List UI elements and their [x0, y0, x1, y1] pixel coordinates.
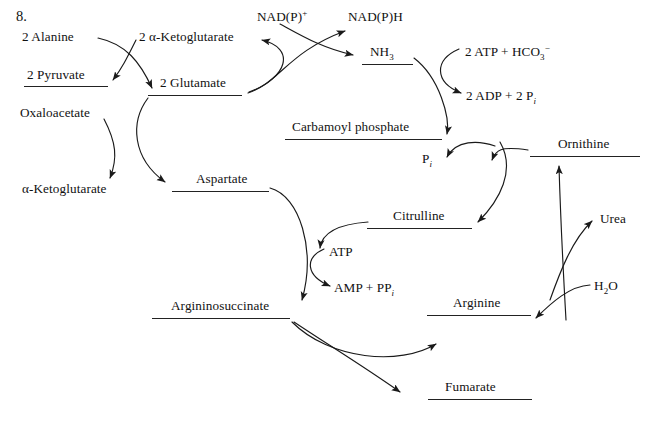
underline-ammonia — [362, 64, 413, 65]
node-citrulline: Citrulline — [393, 209, 445, 223]
node-atp: ATP — [329, 245, 353, 259]
underline-pyruvate — [24, 86, 108, 87]
arrow-alanine-to-glutamate — [98, 38, 152, 88]
diagram-page: 8. 2 Alanine2 PyruvateOxaloacetateα-Keto… — [0, 0, 655, 421]
arrow-aketoglutarate-to-pyruvate — [113, 40, 136, 80]
node-glutamate: 2 Glutamate — [160, 76, 226, 90]
subscript-italic: i — [429, 159, 432, 169]
arrow-atp-to-amp — [310, 249, 330, 286]
superscript: − — [545, 43, 550, 53]
node-ornithine: Ornithine — [558, 137, 609, 151]
node-urea: Urea — [600, 212, 626, 226]
superscript: + — [302, 8, 307, 18]
underline-argininosuccinate — [152, 318, 290, 319]
subscript: 3 — [389, 52, 394, 62]
arrow-layer — [0, 0, 655, 421]
node-amp-ppi: AMP + PPi — [334, 281, 394, 295]
arrow-arginine-to-urea — [550, 221, 592, 300]
subscript-italic: i — [392, 288, 395, 298]
arrow-aspartate-to-argininosuccinate — [270, 188, 307, 300]
underline-carbamoyl-phosphate — [285, 139, 442, 140]
underline-glutamate — [148, 95, 242, 96]
underline-citrulline — [367, 228, 472, 229]
node-nadp-plus: NAD(P)+ — [257, 10, 307, 24]
node-aspartate: Aspartate — [196, 172, 247, 186]
arrow-glutamate-to-aspartate — [137, 98, 165, 182]
subscript-italic: i — [533, 96, 536, 106]
arrow-water-to-arginine — [536, 285, 590, 318]
node-carbamoyl-phosphate: Carbamoyl phosphate — [292, 120, 409, 134]
arrow-nadp-to-ammonia — [280, 24, 353, 55]
arrow-glutamate-to-nadph — [248, 31, 345, 93]
node-ammonia: NH3 — [370, 45, 394, 59]
subscript: 2 — [604, 286, 609, 296]
arrow-arginine-to-ornithine — [559, 166, 566, 320]
arrow-ammonia-to-carbamoyl — [414, 58, 448, 134]
node-pyruvate: 2 Pyruvate — [27, 68, 85, 82]
node-alpha-ketoglutarate-top: 2 α-Ketoglutarate — [139, 30, 234, 44]
arrow-ornithine-to-citrulline — [492, 148, 528, 160]
node-fumarate: Fumarate — [445, 380, 496, 394]
node-pi: Pi — [422, 152, 432, 166]
arrow-carbamoyl-to-citrulline — [478, 142, 506, 222]
node-alanine: 2 Alanine — [22, 30, 74, 44]
item-number: 8. — [16, 8, 27, 25]
arrow-argininosuccinate-to-arginine — [292, 322, 436, 357]
arrow-argininosuccinate-to-fumarate — [294, 322, 400, 392]
node-oxaloacetate: Oxaloacetate — [20, 106, 90, 120]
node-atp-bicarbonate: 2 ATP + HCO3− — [465, 45, 550, 59]
arrow-citrulline-loop-pi — [447, 142, 495, 157]
node-nadph: NAD(P)H — [348, 10, 403, 24]
node-adp-phosphate: 2 ADP + 2 Pi — [466, 89, 536, 103]
underline-aspartate — [172, 191, 269, 192]
node-water: H2O — [594, 279, 618, 293]
arrow-atp-to-adp — [440, 49, 461, 93]
arrow-oxaloacetate-to-aketo — [104, 119, 115, 178]
underline-arginine — [427, 315, 531, 316]
subscript: 3 — [540, 52, 545, 62]
node-alpha-ketoglutarate-bottom: α-Ketoglutarate — [22, 182, 107, 196]
arrow-glutamate-loop — [249, 40, 283, 92]
underline-ornithine — [530, 156, 640, 157]
node-argininosuccinate: Argininosuccinate — [171, 299, 269, 313]
underline-fumarate — [428, 399, 532, 400]
node-arginine: Arginine — [453, 296, 500, 310]
